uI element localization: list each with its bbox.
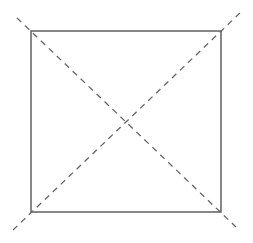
diagonal-bottom-left-to-top-right — [13, 12, 241, 230]
square-with-diagonals-diagram — [0, 0, 253, 243]
diagonal-top-left-to-bottom-right — [17, 18, 236, 227]
